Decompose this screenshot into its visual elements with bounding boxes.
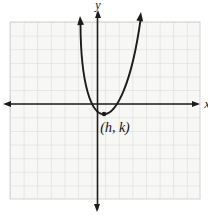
y-axis-label: y: [94, 0, 101, 12]
grid: [10, 22, 200, 199]
parabola-graph-svg: y x (h, k): [0, 0, 208, 216]
vertex-point: [102, 112, 107, 117]
x-axis-left-arrow-icon: [3, 101, 11, 107]
vertex-label: (h, k): [100, 120, 130, 136]
parabola-figure: y x (h, k): [0, 0, 208, 216]
y-axis-bottom-arrow-icon: [94, 204, 100, 212]
x-axis-label: x: [204, 97, 209, 111]
parabola-right-arrow-icon: [136, 12, 144, 22]
parabola-left-arrow-icon: [77, 16, 84, 25]
